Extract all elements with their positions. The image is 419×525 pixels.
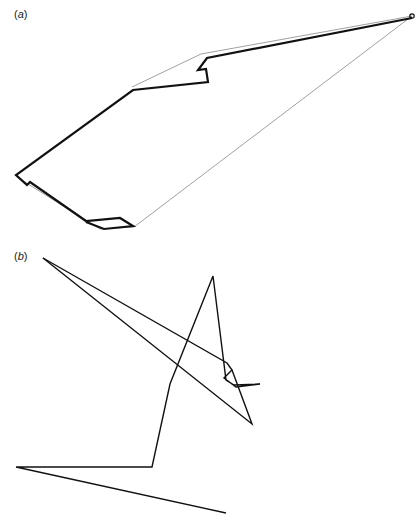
panel-b-path [16,258,260,513]
panel-b [16,258,260,513]
panel-a-thick-path [16,18,412,229]
panel-a [16,14,414,229]
diagram-canvas [0,0,419,525]
panel-a-thin-path [16,16,412,229]
